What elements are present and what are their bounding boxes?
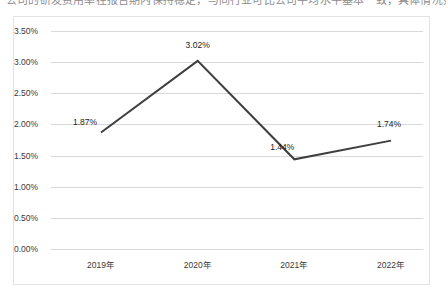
line-series — [14, 17, 431, 286]
screenshot-root: 公司的研发费用率在报告期内保持稳定，与同行业可比公司平均水平基本一致，具体情况如… — [0, 0, 448, 295]
x-axis-tick-label: 2020年 — [184, 258, 212, 270]
data-point-label: 1.44% — [270, 142, 294, 152]
series-polyline — [101, 61, 391, 159]
chart-frame: 0.00%0.50%1.00%1.50%2.00%2.50%3.00%3.50%… — [13, 16, 430, 285]
x-axis-tick-label: 2021年 — [280, 258, 308, 270]
plot-area: 0.00%0.50%1.00%1.50%2.00%2.50%3.00%3.50%… — [14, 17, 429, 284]
cutoff-body-text: 公司的研发费用率在报告期内保持稳定，与同行业可比公司平均水平基本一致，具体情况如… — [6, 0, 446, 6]
data-point-label: 3.02% — [186, 40, 210, 50]
data-point-label: 1.87% — [73, 117, 97, 127]
data-point-label: 1.74% — [377, 119, 401, 129]
x-axis-tick-label: 2022年 — [377, 258, 405, 270]
x-axis-tick-label: 2019年 — [87, 258, 115, 270]
